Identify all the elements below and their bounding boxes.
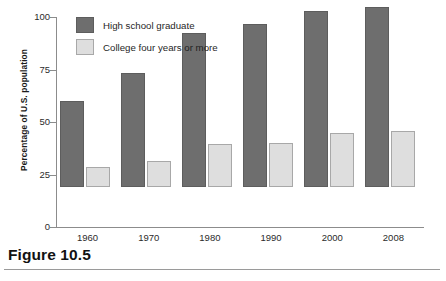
x-tick-label: 2000: [305, 232, 359, 243]
legend-item-high-school: High school graduate: [76, 14, 218, 36]
bar-2000-series-0: [304, 11, 328, 187]
bar-1960-series-0: [60, 101, 84, 187]
caption-divider: [4, 269, 440, 270]
bar-2008-series-0: [365, 7, 389, 187]
bar-2008-series-1: [391, 131, 415, 187]
figure-caption-title: Figure 10.5: [0, 246, 446, 264]
figure-container: Percentage of U.S. population 0255075100…: [0, 0, 446, 281]
bar-1980-series-1: [208, 144, 232, 187]
bar-1970-series-0: [121, 73, 145, 187]
legend-swatch-icon-college: [76, 39, 94, 55]
legend-item-college: College four years or more: [76, 36, 218, 58]
bar-1960-series-1: [86, 167, 110, 187]
x-tick-label: 2008: [366, 232, 420, 243]
bar-2000-series-1: [330, 133, 354, 187]
bars-layer: [0, 0, 446, 240]
figure-caption-block: Figure 10.5: [0, 246, 446, 270]
legend-swatch-icon-high-school: [76, 17, 94, 33]
bar-1970-series-1: [147, 161, 171, 187]
legend-label-college: College four years or more: [103, 42, 218, 53]
legend-label-high-school: High school graduate: [103, 20, 195, 31]
x-tick-label: 1980: [183, 232, 237, 243]
x-tick-label: 1990: [244, 232, 298, 243]
bar-1990-series-1: [269, 143, 293, 187]
x-tick-label: 1960: [61, 232, 115, 243]
chart-plot-area: Percentage of U.S. population 0255075100…: [0, 0, 446, 240]
x-tick-label: 1970: [122, 232, 176, 243]
bar-1990-series-0: [243, 24, 267, 187]
chart-legend: High school graduate College four years …: [76, 14, 218, 58]
